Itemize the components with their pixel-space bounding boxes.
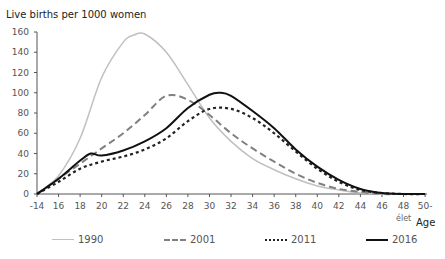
legend-label: 1990 (78, 234, 103, 245)
chart-legend: 1990 2001 2011 2016 (0, 234, 445, 250)
x-tick-label: 22 (118, 201, 129, 211)
series-line-2011 (37, 108, 425, 194)
y-tick-label: 20 (18, 169, 30, 179)
y-tick-label: 140 (12, 47, 29, 57)
y-tick-label: 0 (23, 189, 29, 199)
line-chart: 020406080100120140160-141618202224262830… (0, 0, 445, 259)
y-tick-label: 40 (18, 149, 30, 159)
x-tick-label: 46 (376, 201, 388, 211)
legend-solid-light-line-icon (52, 239, 74, 240)
legend-dashed-line-icon (164, 239, 186, 241)
x-tick-label: 38 (290, 201, 302, 211)
x-axis-label: Age (416, 217, 435, 228)
x-tick-label: 42 (333, 201, 344, 211)
legend-item-2016: 2016 (366, 234, 417, 245)
y-tick-label: 100 (12, 88, 29, 98)
y-tick-label: 80 (18, 108, 30, 118)
x-tick-label: -14 (30, 201, 45, 211)
x-tick-label: 18 (74, 201, 86, 211)
x-tick-label: 26 (161, 201, 173, 211)
legend-label: 2011 (291, 234, 316, 245)
y-tick-label: 160 (12, 27, 29, 37)
x-tick-label: 30 (204, 201, 216, 211)
x-tick-label: 16 (53, 201, 65, 211)
x-tick-label: 24 (139, 201, 151, 211)
y-tick-label: 60 (18, 128, 30, 138)
x-tick-label: 40 (312, 201, 324, 211)
chart-axes: 020406080100120140160-141618202224262830… (12, 27, 433, 211)
legend-solid-dark-line-icon (366, 239, 388, 241)
x-tick-label: 44 (355, 201, 367, 211)
x-tick-label: 28 (182, 201, 194, 211)
legend-dotted-line-icon (265, 239, 287, 241)
legend-label: 2001 (190, 234, 215, 245)
legend-item-1990: 1990 (52, 234, 103, 245)
y-tick-label: 120 (12, 68, 29, 78)
chart-lines (37, 33, 425, 194)
x-tick-label: 50- (418, 201, 433, 211)
x-axis-sublabel: élet (396, 214, 411, 223)
x-tick-label: 32 (225, 201, 236, 211)
legend-item-2001: 2001 (164, 234, 215, 245)
legend-item-2011: 2011 (265, 234, 316, 245)
x-tick-label: 20 (96, 201, 108, 211)
x-tick-label: 34 (247, 201, 259, 211)
x-tick-label: 36 (268, 201, 280, 211)
legend-label: 2016 (392, 234, 417, 245)
series-line-1990 (37, 33, 425, 194)
x-tick-label: 48 (398, 201, 410, 211)
series-line-2016 (37, 93, 425, 194)
